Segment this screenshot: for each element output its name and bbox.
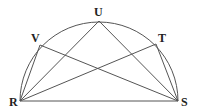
segment-rv [20,45,40,101]
label-t: T [158,31,166,45]
segment-sv [40,45,178,101]
segment-rt [20,44,156,101]
segment-st [156,44,178,101]
semicircle-figure: R S U V T [0,0,199,108]
chord-segments [20,21,178,101]
label-s: S [181,95,188,108]
label-u: U [94,5,103,19]
label-v: V [31,31,40,45]
geometry-diagram: R S U V T [0,0,199,108]
semicircle-arc [20,22,178,101]
label-r: R [9,95,18,108]
